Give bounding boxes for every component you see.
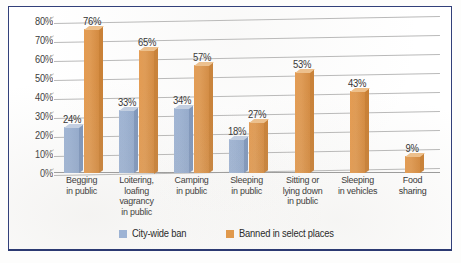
bar-sleeping-in-vehicles-banned-select-places[interactable]: 43%: [350, 91, 365, 173]
bar-sleeping-in-public-banned-select-places[interactable]: 27%: [249, 122, 264, 173]
bar-side-face: [99, 26, 103, 173]
bar-slot: 43%: [348, 21, 367, 173]
bar-value-label: 53%: [293, 58, 311, 70]
bar-front-face: [350, 91, 365, 173]
legend-label: Banned in select places: [239, 228, 334, 239]
legend-swatch-icon: [119, 230, 127, 238]
bar-value-label: 27%: [248, 108, 266, 120]
bar-group-sleeping-in-public: 18%27%: [219, 21, 274, 173]
bar-side-face: [154, 47, 158, 173]
bar-group-food-sharing: 9%: [385, 21, 440, 173]
bar-groups: 24%76%33%65%34%57%18%27%53%43%9%: [54, 21, 440, 173]
x-axis-category-label: Sleepingin vehicles: [332, 175, 383, 217]
bar-front-face: [119, 110, 134, 173]
y-axis-tick-label: 10%: [21, 148, 53, 160]
bar-slot: 33%: [117, 21, 136, 173]
bar-value-label: 57%: [193, 51, 211, 63]
bar-camping-in-public-banned-select-places[interactable]: 57%: [194, 65, 209, 173]
bar-slot: 34%: [172, 21, 191, 173]
bar-slot: 24%: [62, 21, 81, 173]
y-axis-tick-label: 20%: [21, 129, 53, 141]
bar-front-face: [405, 156, 420, 173]
legend-swatch-icon: [226, 230, 234, 238]
y-axis-tick-label: 70%: [21, 34, 53, 46]
chart-frame-border: 80%70%60%50%40%30%20%10%0% 24%76%33%65%3…: [8, 6, 452, 250]
bar-front-face: [64, 127, 79, 173]
y-axis-tick-label: 30%: [21, 110, 53, 122]
bar-loitering-loafing-vagrancy-in-public-banned-select-places[interactable]: 65%: [139, 50, 154, 174]
bar-food-sharing-banned-select-places[interactable]: 9%: [405, 156, 420, 173]
x-axis-category-line: in public: [57, 186, 106, 197]
x-axis-category-line: Camping: [167, 175, 216, 186]
x-axis-category-label: Loitering,loafingvagrancyin public: [111, 175, 162, 217]
y-axis-tick-label: 50%: [21, 72, 53, 84]
bar-group-sitting-or-lying-down-in-public: 53%: [275, 21, 330, 173]
bar-slot: 65%: [137, 21, 156, 173]
x-axis-category-label: Campingin public: [166, 175, 217, 217]
y-axis-tick-label: 60%: [21, 53, 53, 65]
x-axis-category-line: Sleeping: [333, 175, 382, 186]
bar-sleeping-in-public-city-wide-ban[interactable]: 18%: [229, 139, 244, 173]
x-axis-category-line: Loitering,: [112, 175, 161, 186]
y-axis-tick-label: 80%: [21, 15, 53, 27]
bar-sitting-or-lying-down-in-public-banned-select-places[interactable]: 53%: [295, 72, 310, 173]
bar-value-label: 9%: [406, 142, 419, 154]
bar-front-face: [295, 72, 310, 173]
x-axis-category-label: Sitting orlying downin public: [276, 175, 327, 217]
bar-group-begging-in-public: 24%76%: [54, 21, 109, 173]
bar-slot: 27%: [247, 21, 266, 173]
bar-front-face: [174, 108, 189, 173]
bar-side-face: [365, 89, 369, 173]
bar-front-face: [249, 122, 264, 173]
bar-begging-in-public-banned-select-places[interactable]: 76%: [84, 29, 99, 173]
bar-side-face: [264, 119, 268, 173]
bar-value-label: 65%: [138, 36, 156, 48]
bar-value-label: 34%: [173, 94, 191, 106]
bar-slot: 57%: [192, 21, 211, 173]
x-axis-category-line: Sitting or: [277, 175, 326, 186]
bar-value-label: 33%: [118, 96, 136, 108]
bar-group-loitering-loafing-vagrancy-in-public: 33%65%: [109, 21, 164, 173]
bar-front-face: [229, 139, 244, 173]
y-axis: 80%70%60%50%40%30%20%10%0%: [17, 15, 53, 175]
bar-slot: 53%: [293, 21, 312, 173]
bar-slot: 9%: [403, 21, 422, 173]
chart-legend: City-wide banBanned in select places: [0, 228, 461, 239]
bar-begging-in-public-city-wide-ban[interactable]: 24%: [64, 127, 79, 173]
bar-camping-in-public-city-wide-ban[interactable]: 34%: [174, 108, 189, 173]
x-axis: Beggingin publicLoitering,loafingvagranc…: [54, 175, 440, 217]
bar-slot: 18%: [227, 21, 246, 173]
x-axis-category-label: Foodsharing: [387, 175, 438, 217]
x-axis-category-line: Begging: [57, 175, 106, 186]
legend-label: City-wide ban: [132, 228, 186, 239]
x-axis-category-line: Sleeping: [222, 175, 271, 186]
x-axis-category-line: in public: [112, 207, 161, 218]
y-axis-tick-label: 40%: [21, 91, 53, 103]
bar-value-label: 24%: [63, 113, 81, 125]
x-axis-category-line: in public: [277, 196, 326, 207]
bar-front-face: [139, 50, 154, 174]
bar-group-sleeping-in-vehicles: 43%: [330, 21, 385, 173]
chart-figure: 80%70%60%50%40%30%20%10%0% 24%76%33%65%3…: [0, 0, 461, 263]
bar-side-face: [209, 62, 213, 173]
bar-group-camping-in-public: 34%57%: [164, 21, 219, 173]
bar-loitering-loafing-vagrancy-in-public-city-wide-ban[interactable]: 33%: [119, 110, 134, 173]
x-axis-category-line: in public: [222, 186, 271, 197]
bar-front-face: [84, 29, 99, 173]
bar-side-face: [310, 70, 314, 173]
x-axis-category-line: in vehicles: [333, 186, 382, 197]
bar-slot: 76%: [82, 21, 101, 173]
bar-value-label: 18%: [228, 125, 246, 137]
bar-value-label: 76%: [83, 15, 101, 27]
y-axis-tick-label: 0%: [21, 167, 53, 179]
x-axis-category-label: Sleepingin public: [221, 175, 272, 217]
x-axis-category-line: in public: [167, 186, 216, 197]
bar-front-face: [194, 65, 209, 173]
x-axis-category-line: Food: [388, 175, 437, 186]
legend-item-banned-in-select-places[interactable]: Banned in select places: [226, 228, 342, 239]
x-axis-category-line: sharing: [388, 186, 437, 197]
x-axis-category-label: Beggingin public: [56, 175, 107, 217]
legend-item-city-wide-ban[interactable]: City-wide ban: [119, 228, 191, 239]
bar-value-label: 43%: [348, 77, 366, 89]
